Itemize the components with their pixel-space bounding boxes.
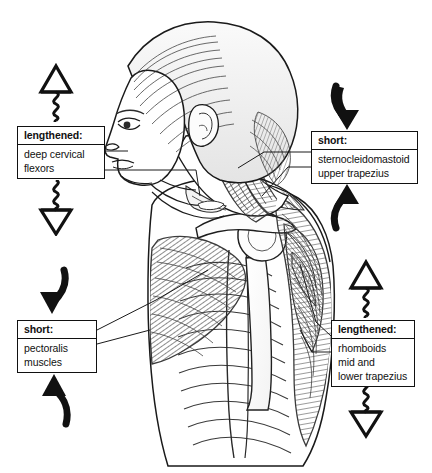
label-line: pectoralis	[24, 341, 91, 355]
label-header: short:	[18, 321, 96, 339]
label-line: flexors	[24, 161, 99, 175]
label-box-deep-cervical-flexors[interactable]: lengthened: deep cervical flexors	[17, 126, 105, 179]
label-box-sternocleidomastoid-upper-trapezius[interactable]: short: sternocleidomastoid upper trapezi…	[311, 131, 418, 184]
lengthened-symbol-up-top-left	[36, 62, 76, 122]
short-arrow-up-bottom-left	[32, 372, 80, 428]
short-arrow-down-top-right	[322, 82, 368, 132]
label-line: rhomboids	[338, 341, 409, 355]
lengthened-symbol-down-top-left	[36, 180, 76, 236]
lengthened-symbol-up-bottom-right	[346, 258, 386, 318]
torso-group	[148, 176, 334, 466]
label-box-rhomboids-lower-trapezius[interactable]: lengthened: rhomboids mid and lower trap…	[331, 320, 415, 387]
leader-pectoralis-2	[97, 330, 150, 344]
label-body: rhomboids mid and lower trapezius	[332, 339, 414, 386]
label-body: sternocleidomastoid upper trapezius	[312, 150, 417, 183]
label-line: lower trapezius	[338, 369, 409, 383]
label-body: pectoralis muscles	[18, 339, 96, 372]
label-line: mid and	[338, 355, 409, 369]
label-line: muscles	[24, 355, 91, 369]
label-line: upper trapezius	[318, 166, 412, 180]
short-arrow-down-bottom-left	[30, 266, 78, 316]
label-body: deep cervical flexors	[18, 145, 104, 178]
label-header: short:	[312, 132, 417, 150]
head-group	[105, 22, 298, 190]
label-header: lengthened:	[332, 321, 414, 339]
label-box-pectoralis-muscles[interactable]: short: pectoralis muscles	[17, 320, 97, 373]
label-header: lengthened:	[18, 127, 104, 145]
short-arrow-up-top-right	[322, 182, 368, 232]
lengthened-symbol-down-bottom-right	[346, 382, 386, 442]
label-line: sternocleidomastoid	[318, 152, 412, 166]
diagram-canvas: lengthened: deep cervical flexors short:…	[0, 0, 432, 473]
label-line: deep cervical	[24, 147, 99, 161]
